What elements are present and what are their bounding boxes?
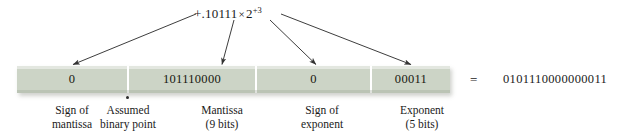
caption-sign-of-exponent: Sign of exponent <box>272 104 372 131</box>
caption-sign-of-exponent-line2: exponent <box>272 118 372 132</box>
caption-exponent-line1: Exponent <box>400 104 444 116</box>
field-sign-of-mantissa: 0 <box>17 66 127 93</box>
multiplication-sign-icon: × <box>238 8 246 20</box>
caption-mantissa-line1: Mantissa <box>201 104 243 116</box>
assumed-binary-point-dot <box>126 96 129 99</box>
formula-base: 2 <box>246 6 253 21</box>
caption-exponent: Exponent (5 bits) <box>372 104 472 131</box>
field-exponent: 00011 <box>370 66 450 93</box>
field-mantissa: 101110000 <box>127 66 255 93</box>
field-sign-of-exponent-value: 0 <box>310 72 317 87</box>
arrow-to-sign-of-mantissa <box>73 14 196 65</box>
caption-sign-of-exponent-line1: Sign of <box>305 104 339 116</box>
formula-exponent: +3 <box>253 5 262 15</box>
formula-mantissa-sign: + <box>194 6 202 21</box>
formula-mantissa-text: .10111 <box>202 6 238 21</box>
field-sign-of-exponent: 0 <box>255 66 370 93</box>
bit-field-bar: 0 101110000 0 00011 <box>17 66 450 93</box>
arrow-to-exponent <box>281 14 411 65</box>
caption-exponent-line2: (5 bits) <box>372 118 472 132</box>
caption-mantissa: Mantissa (9 bits) <box>172 104 272 131</box>
arrow-to-mantissa <box>222 20 234 65</box>
equals-sign: = <box>470 72 477 88</box>
floating-point-format-diagram: +.10111×2+3 0 101110000 0 00011 <box>0 0 624 140</box>
formula-expression: +.10111×2+3 <box>194 6 262 20</box>
caption-assumed-binary-point-line1: Assumed <box>107 104 150 116</box>
field-exponent-value: 00011 <box>395 72 427 87</box>
arrow-to-sign-of-exponent <box>270 20 316 65</box>
field-sign-of-mantissa-value: 0 <box>69 72 76 87</box>
result-bit-string: 0101110000000011 <box>503 72 607 87</box>
caption-assumed-binary-point-line2: binary point <box>78 118 178 132</box>
field-mantissa-value: 101110000 <box>163 72 221 87</box>
caption-assumed-binary-point: Assumed binary point <box>78 104 178 131</box>
caption-mantissa-line2: (9 bits) <box>172 118 272 132</box>
